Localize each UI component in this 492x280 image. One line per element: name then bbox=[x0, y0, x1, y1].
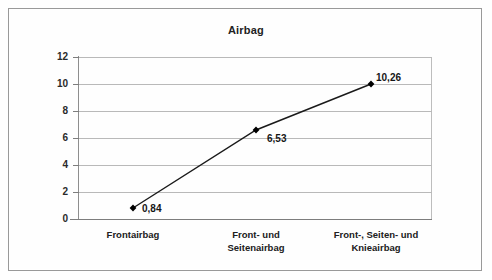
x-axis-label-front-und-seitenairbag: Front- und Seitenairbag bbox=[196, 228, 316, 254]
x-axis-label-line: Knieairbag bbox=[308, 241, 444, 254]
data-point-marker-1 bbox=[253, 127, 260, 134]
x-axis-label-line: Front-, Seiten- und bbox=[308, 228, 444, 241]
data-point-marker-2 bbox=[368, 81, 375, 88]
x-axis-label-frontairbag: Frontairbag bbox=[73, 228, 193, 241]
data-point-label-1: 6,53 bbox=[267, 133, 286, 144]
x-axis-label-line: Frontairbag bbox=[73, 228, 193, 241]
x-axis-label-line: Front- und bbox=[196, 228, 316, 241]
chart-screenshot: Airbag 12 10 8 6 4 2 0 0,84 6,53 10,26 F… bbox=[0, 0, 492, 280]
x-axis-label-front-seiten-und-knieairbag: Front-, Seiten- und Knieairbag bbox=[308, 228, 444, 254]
x-axis-label-line: Seitenairbag bbox=[196, 241, 316, 254]
data-point-label-2: 10,26 bbox=[376, 72, 401, 83]
data-point-label-0: 0,84 bbox=[142, 203, 161, 214]
data-point-marker-0 bbox=[130, 205, 137, 212]
series-line bbox=[133, 84, 371, 208]
